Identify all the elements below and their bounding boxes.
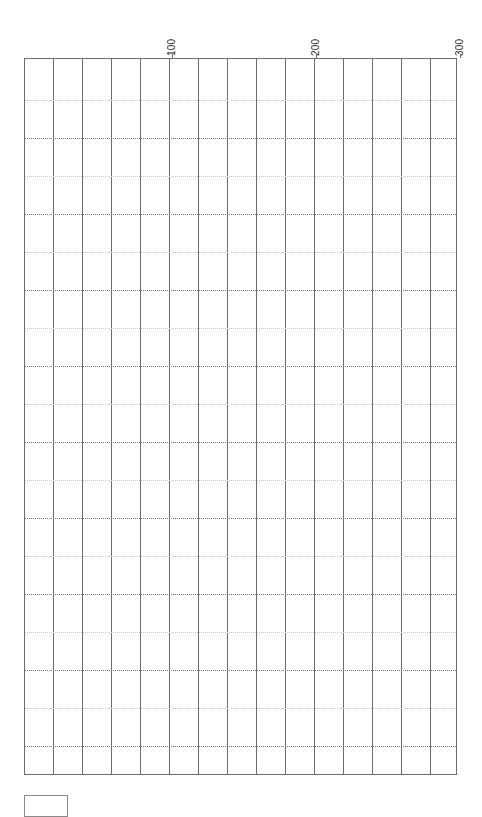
axis-tick-mark-200 [316, 54, 317, 58]
grid-hline-major [25, 366, 456, 367]
axis-tick-mark-300 [460, 54, 461, 58]
grid-hline-major [25, 518, 456, 519]
grid-vline [53, 59, 54, 774]
grid-vline [314, 59, 315, 774]
grid-hline-major [25, 214, 456, 215]
grid-hline-minor [25, 176, 456, 177]
grid-hline-major [25, 670, 456, 671]
top-axis: 100200300 [0, 0, 482, 58]
grid-hline-minor [25, 632, 456, 633]
plot-area[interactable] [24, 58, 457, 775]
grid-hline-major [25, 594, 456, 595]
grid-vline [111, 59, 112, 774]
grid-vline [198, 59, 199, 774]
plot-grid [25, 59, 456, 774]
grid-vline [140, 59, 141, 774]
grid-hline-minor [25, 404, 456, 405]
grid-hline-major [25, 138, 456, 139]
grid-hline-minor [25, 480, 456, 481]
grid-vline [169, 59, 170, 774]
grid-vline [401, 59, 402, 774]
grid-hline-minor [25, 328, 456, 329]
axis-tick-mark-100 [172, 54, 173, 58]
grid-vline [285, 59, 286, 774]
grid-hline-major [25, 442, 456, 443]
grid-hline-minor [25, 556, 456, 557]
grid-vline [430, 59, 431, 774]
grid-hline-major [25, 290, 456, 291]
grid-vline [82, 59, 83, 774]
legend-box[interactable] [24, 795, 68, 817]
grid-hline-minor [25, 252, 456, 253]
grid-hline-minor [25, 708, 456, 709]
grid-vline [256, 59, 257, 774]
grid-vline [372, 59, 373, 774]
grid-hline-minor [25, 100, 456, 101]
grid-vline [227, 59, 228, 774]
grid-vline [343, 59, 344, 774]
grid-hline-major [25, 746, 456, 747]
